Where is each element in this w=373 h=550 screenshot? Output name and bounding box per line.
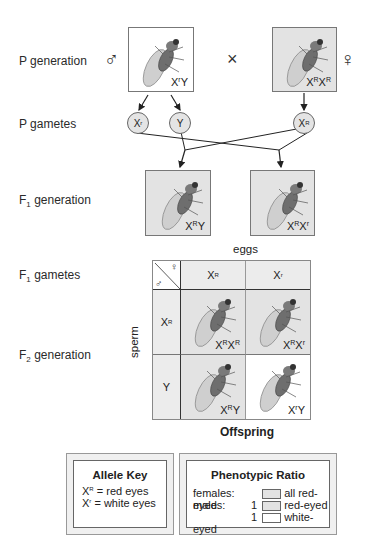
male-symbol-icon: ♂ xyxy=(155,278,163,289)
allele-entry: XR = red eyes xyxy=(82,485,166,497)
label-f1-gametes: F1 gametes xyxy=(19,268,80,284)
sperm-header-xR: XR xyxy=(153,290,181,355)
gamete-xR-female: XR xyxy=(293,112,315,134)
egg-header-xr: Xr xyxy=(246,261,310,290)
allele-entry: Xr = white eyes xyxy=(82,497,166,509)
offspring-cell-xRxR: XRXR xyxy=(181,290,246,355)
genotype-label: XRXR xyxy=(215,339,240,351)
offspring-cell-xRy: XRY xyxy=(181,355,246,419)
punnett-square: ♀ ♂ XR Xr XR Y XRXR XRXr XRY XrY xyxy=(152,260,311,420)
genotype-label: XRXr xyxy=(287,220,309,232)
corner-cell: ♀ ♂ xyxy=(153,261,181,290)
label-f2-generation: F2 generation xyxy=(19,348,91,364)
allele-key-box: Allele Key XR = red eyes Xr = white eyes xyxy=(66,453,174,535)
ratio-row: males:1 red-eyed xyxy=(193,499,329,511)
genotype-label: XRY xyxy=(220,404,240,416)
allele-key-title: Allele Key xyxy=(74,469,166,481)
phenotypic-ratio-box: Phenotypic Ratio females: all red-eyed m… xyxy=(179,453,337,535)
egg-header-xR: XR xyxy=(181,261,246,290)
genotype-label: XrY xyxy=(288,404,305,416)
offspring-cell-xry: XrY xyxy=(246,355,310,419)
sperm-label: sperm xyxy=(128,326,140,358)
female-symbol-icon: ♀ xyxy=(171,261,179,272)
genotype-label: XRXr xyxy=(283,339,305,351)
grey-swatch-icon xyxy=(262,501,281,511)
f1-female-box: XRXr xyxy=(250,170,315,236)
f1-male-box: XRY xyxy=(145,170,211,236)
phenotypic-ratio-title: Phenotypic Ratio xyxy=(187,469,329,481)
gamete-y: Y xyxy=(169,112,191,134)
gamete-xr-male: Xr xyxy=(127,112,149,134)
sperm-header-y: Y xyxy=(153,355,181,419)
white-swatch-icon xyxy=(262,513,281,523)
offspring-cell-xRxr: XRXr xyxy=(246,290,310,355)
eggs-label: eggs xyxy=(233,243,258,255)
offspring-label: Offspring xyxy=(220,425,274,439)
genotype-label: XRY xyxy=(185,220,205,232)
ratio-row: 1 white-eyed xyxy=(193,511,329,535)
grey-swatch-icon xyxy=(262,489,281,499)
